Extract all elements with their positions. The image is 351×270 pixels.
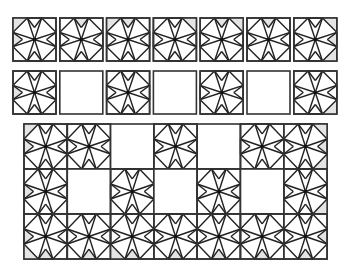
row1-tile-6 (247, 18, 290, 61)
center-dot-icon (173, 38, 177, 42)
grid-cell-r3c4 (154, 214, 197, 259)
center-dot-icon (44, 235, 48, 239)
center-dot-icon (44, 145, 48, 149)
grid-cell-r1c4 (154, 124, 197, 169)
grid-cell-r2c2 (67, 169, 110, 214)
grid-cell-r3c1 (24, 214, 67, 259)
center-dot-icon (217, 235, 221, 239)
row2-tile-2 (60, 71, 103, 114)
row1-tile-4 (153, 18, 196, 61)
center-dot-icon (220, 38, 224, 42)
center-dot-icon (260, 235, 264, 239)
grid-cell-r1c7 (284, 124, 327, 169)
center-dot-icon (130, 190, 134, 194)
center-dot-icon (260, 145, 264, 149)
grid-cell-r3c2 (67, 214, 110, 259)
row2-tile-3 (107, 71, 150, 114)
center-dot-icon (87, 235, 91, 239)
center-dot-icon (267, 38, 271, 42)
center-dot-icon (174, 235, 178, 239)
puzzle-canvas (0, 0, 351, 270)
center-dot-icon (314, 38, 318, 42)
tile-row-middle (13, 71, 337, 114)
grid-cell-r3c7 (284, 214, 327, 259)
center-dot-icon (130, 235, 134, 239)
grid-cell-r2c1 (24, 169, 67, 214)
grid-cell-r2c4 (154, 169, 197, 214)
center-dot-icon (33, 38, 37, 42)
row2-tile-6 (247, 71, 290, 114)
grid-cell-r1c5 (197, 124, 240, 169)
row2-tile-7 (294, 71, 337, 114)
center-dot-icon (126, 38, 130, 42)
tile-row-top (13, 18, 337, 61)
row1-tile-2 (60, 18, 103, 61)
row1-tile-7 (294, 18, 337, 61)
center-dot-icon (44, 190, 48, 194)
grid-cell-r1c3 (111, 124, 154, 169)
center-dot-icon (304, 190, 308, 194)
center-dot-icon (126, 91, 130, 95)
center-dot-icon (304, 145, 308, 149)
center-dot-icon (80, 38, 84, 42)
grid-cell-r1c1 (24, 124, 67, 169)
grid-cell-r2c6 (241, 169, 284, 214)
grid-cell-r3c5 (197, 214, 240, 259)
grid-cell-r3c6 (241, 214, 284, 259)
row1-tile-1 (13, 18, 56, 61)
row2-tile-4 (153, 71, 196, 114)
grid-cell-r2c3 (111, 169, 154, 214)
center-dot-icon (217, 190, 221, 194)
center-dot-icon (304, 235, 308, 239)
row1-tile-3 (107, 18, 150, 61)
tile-grid-bottom (24, 124, 327, 259)
grid-cell-r1c6 (241, 124, 284, 169)
grid-cell-r2c5 (197, 169, 240, 214)
row1-tile-5 (200, 18, 243, 61)
row2-tile-5 (200, 71, 243, 114)
row2-tile-1 (13, 71, 56, 114)
center-dot-icon (174, 145, 178, 149)
grid-cell-r2c7 (284, 169, 327, 214)
grid-cell-r1c2 (67, 124, 110, 169)
center-dot-icon (87, 145, 91, 149)
center-dot-icon (314, 91, 318, 95)
grid-cell-r3c3 (111, 214, 154, 259)
center-dot-icon (33, 91, 37, 95)
center-dot-icon (220, 91, 224, 95)
